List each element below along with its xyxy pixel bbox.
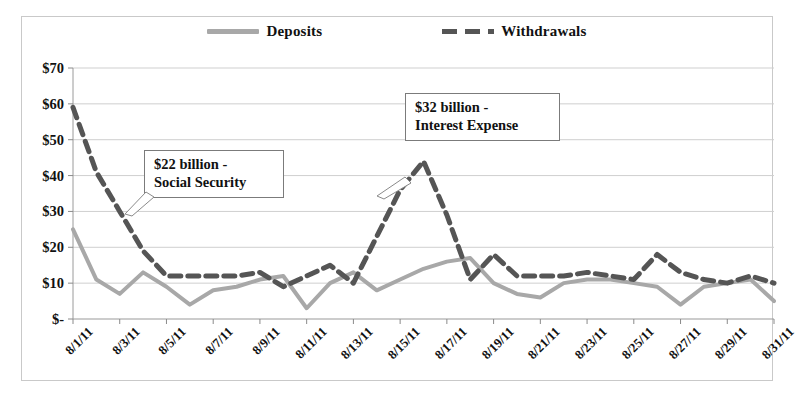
- interest-expense-pointer-icon: [377, 177, 411, 199]
- social-security-pointer-icon: [125, 192, 154, 216]
- annotation-pointer-lines: [22, 17, 774, 382]
- chart-frame: Deposits Withdrawals $-$10$20$30$40$50$6…: [21, 16, 773, 381]
